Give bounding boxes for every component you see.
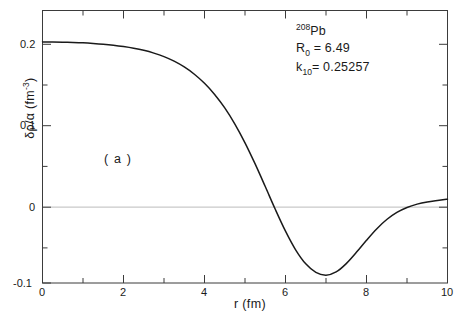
x-ticklabel-1: 2: [120, 286, 126, 298]
x-ticklabel-0: 0: [39, 286, 45, 298]
y-axis-major-ticks: [43, 44, 52, 283]
r0-value: = 6.49: [314, 41, 350, 55]
y-axis-label: δρ/α (fm-3): [21, 33, 37, 183]
x-ticklabel-5: 10: [441, 286, 453, 298]
plot-canvas: [0, 0, 461, 319]
figure-panel-a: 0.2 0.1 0 -0.1 0 2 4 6 8 10 δρ/α (fm-3) …: [0, 0, 461, 319]
nuclide-symbol: Pb: [310, 24, 326, 38]
r0-subscript: 0: [305, 48, 310, 58]
y-axis-right-major-ticks: [439, 44, 448, 207]
y-axis-minor-ticks: [43, 85, 48, 248]
y-axis-right-minor-ticks: [443, 85, 448, 248]
panel-label: ( a ): [104, 152, 132, 166]
annotation-r0: R0 = 6.49: [296, 41, 350, 58]
y-axis-label-text: δρ/α (fm: [23, 90, 37, 139]
x-axis-top-minor-ticks: [83, 11, 407, 16]
plot-frame: [43, 11, 448, 284]
y-axis-label-exponent: -3: [21, 82, 31, 90]
y-axis-label-tail: ): [23, 77, 37, 81]
k10-subscript: 10: [302, 67, 311, 77]
r0-symbol: R: [296, 41, 305, 55]
k10-value: = 0.25257: [312, 60, 370, 74]
nuclide-mass-number: 208: [296, 22, 310, 32]
x-axis-minor-ticks: [83, 278, 407, 283]
y-ticklabel-3: -0.1: [13, 277, 32, 289]
x-ticklabel-4: 8: [363, 286, 369, 298]
annotation-nuclide: 208Pb: [296, 22, 326, 38]
y-ticklabel-2: 0: [29, 201, 35, 213]
annotation-k10: k10= 0.25257: [296, 60, 370, 77]
x-axis-label: r (fm): [180, 297, 320, 311]
